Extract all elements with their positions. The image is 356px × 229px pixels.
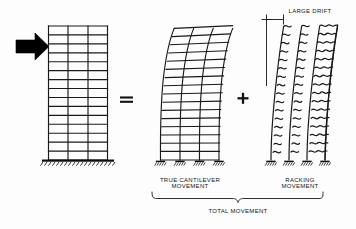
true-cantilever-label-line2: MOVEMENT [171,183,208,190]
undeformed-frame [49,26,108,160]
racking-frame-supports [265,161,331,165]
cantilever-frame [160,26,232,160]
total-movement-brace [152,192,323,203]
plus-operator [238,93,249,104]
equals-operator [120,98,133,102]
cantilever-frame-supports [155,161,225,165]
ground-support-hatch [41,161,116,166]
racking-label-line2: MOVEMENT [281,183,318,190]
lateral-load-arrow [16,33,49,60]
total-movement-label: TOTAL MOVEMENT [208,208,267,215]
large-drift-label: LARGE DRIFT [289,8,332,15]
diagram-canvas: LARGE DRIFT TRUE CANTILEVER MOVEMENT RAC… [0,0,356,229]
structural-deflection-diagram [0,0,356,229]
